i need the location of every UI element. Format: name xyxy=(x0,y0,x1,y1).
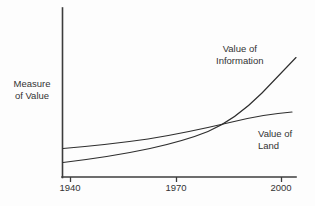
chart-plot-area xyxy=(0,0,315,206)
series-label-land-line2: Land xyxy=(258,140,279,151)
series-label-value-of-land: Value ofLand xyxy=(258,128,292,151)
series-label-value-of-information: Value ofInformation xyxy=(216,43,264,66)
series-label-information-line1: Value of xyxy=(223,43,257,54)
series-label-information-line2: Information xyxy=(216,55,264,66)
series-label-land-line1: Value of xyxy=(258,128,292,139)
x-tick-label-1970: 1970 xyxy=(156,182,196,193)
y-axis-label-line2: of Value xyxy=(15,90,49,101)
chart-figure: Measureof Value Value ofInformation Valu… xyxy=(0,0,315,206)
x-tick-label-1940: 1940 xyxy=(50,182,90,193)
y-axis-label: Measureof Value xyxy=(6,78,58,101)
y-axis-label-line1: Measure xyxy=(14,78,51,89)
x-tick-label-2000: 2000 xyxy=(261,182,301,193)
